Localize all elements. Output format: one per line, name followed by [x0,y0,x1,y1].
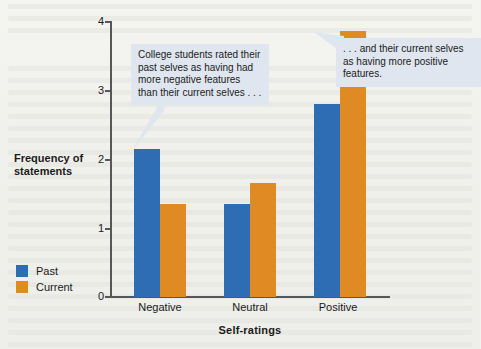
y-tick-label-3: 3 [84,85,104,96]
legend-label-past: Past [36,265,58,277]
bar-past-negative[interactable] [134,149,160,297]
legend-swatch-past [16,265,28,277]
y-axis-title: Frequency of statements [14,152,106,178]
bar-current-neutral[interactable] [250,183,276,297]
category-label-positive: Positive [298,301,378,313]
y-tick-1 [105,228,110,230]
y-tick-label-1: 1 [84,223,104,234]
y-axis-title-line2: statements [14,165,106,178]
legend-item-past[interactable]: Past [16,265,73,277]
legend-label-current: Current [36,281,73,293]
callout-right: . . . and their current selves as having… [336,38,481,87]
y-tick-0 [105,296,110,298]
y-tick-label-1-text: 1 [90,223,104,234]
y-axis-title-line1: Frequency of [14,152,106,165]
x-axis-title: Self-ratings [110,324,390,336]
legend: Past Current [16,265,73,297]
bar-current-negative[interactable] [160,204,186,297]
category-label-neutral: Neutral [210,301,290,313]
legend-item-current[interactable]: Current [16,281,73,293]
category-label-negative: Negative [120,301,200,313]
y-tick-label-4: 4 [84,16,104,27]
y-tick-4 [105,21,110,23]
y-tick-3 [105,90,110,92]
y-tick-label-3-text: 3 [90,85,104,96]
bar-past-positive[interactable] [314,104,340,297]
bar-past-neutral[interactable] [224,204,250,297]
y-tick-label-4-text: 4 [90,16,104,27]
callout-left: College students rated their past selves… [131,44,269,105]
y-tick-label-0-text: 0 [90,291,104,302]
y-tick-label-0: 0 [84,291,104,302]
legend-swatch-current [16,281,28,293]
